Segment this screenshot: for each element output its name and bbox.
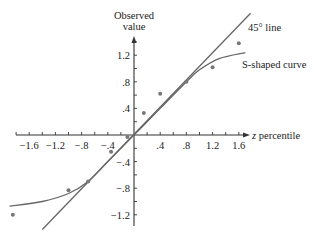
y-axis-title-line1: Observed [114, 10, 155, 21]
data-point [67, 188, 71, 192]
x-axis-arrow-icon [243, 133, 250, 138]
curves [10, 13, 251, 229]
y-tick-label: .8 [122, 77, 130, 88]
data-point [158, 92, 162, 96]
y-tick-label: −.8 [116, 183, 130, 194]
x-tick-label: .4 [156, 140, 165, 151]
scurve-label: S-shaped curve [242, 59, 307, 70]
x-tick-label: .8 [182, 140, 190, 151]
axis-ticks: −1.6−1.2−.8−.4.4.81.21.61.2.8.4−.4−.8−1.… [16, 42, 245, 221]
axes [16, 36, 250, 226]
data-point [184, 80, 188, 84]
x-tick-label: 1.6 [232, 140, 245, 151]
data-point [125, 135, 129, 139]
x-tick-label: −.4 [101, 140, 116, 151]
y-tick-label: 1.2 [117, 50, 130, 61]
line-45-degree [42, 13, 250, 229]
x-axis-title: z percentile [251, 130, 300, 141]
line45-label: 45° line [248, 22, 281, 33]
x-tick-label: 1.2 [206, 140, 219, 151]
y-axis-title-line2: value [123, 21, 146, 32]
y-tick-label: −.4 [116, 157, 131, 168]
y-tick-label: −1.2 [111, 210, 130, 221]
y-tick-label: .4 [122, 103, 131, 114]
data-point [237, 41, 241, 45]
x-tick-label: −1.6 [20, 140, 39, 151]
normal-probability-plot: −1.6−1.2−.8−.4.4.81.21.61.2.8.4−.4−.8−1.… [0, 0, 314, 239]
x-tick-label: −1.2 [46, 140, 65, 151]
data-point [109, 150, 113, 154]
data-point [86, 180, 90, 184]
x-tick-label: −.8 [75, 140, 89, 151]
data-point [211, 65, 215, 69]
x-axis-title-rest: percentile [256, 130, 300, 141]
data-point [11, 213, 15, 217]
data-point [142, 111, 146, 115]
